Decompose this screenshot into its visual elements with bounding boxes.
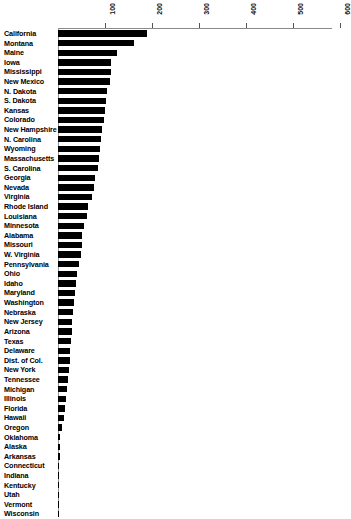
bar: [58, 424, 62, 430]
bar-row: Mississippi: [0, 67, 342, 77]
bar-row: Oregon: [0, 423, 342, 433]
bar-row: Pennsylvania: [0, 260, 342, 270]
bar: [58, 482, 59, 488]
x-axis-tick: [293, 23, 294, 28]
x-axis-tick: [105, 23, 106, 28]
bar: [58, 165, 98, 171]
bar-row: Utah: [0, 490, 342, 500]
bar-row-label: Hawaii: [4, 413, 104, 423]
bar-row: Alaska: [0, 442, 342, 452]
bar-row: New York: [0, 365, 342, 375]
bar-row-label: Illinois: [4, 394, 104, 404]
bar-row-label: Arkansas: [4, 452, 104, 462]
x-axis-tick-label: 400: [250, 3, 257, 15]
bar: [58, 251, 81, 257]
bar-row: Ohio: [0, 269, 342, 279]
bar-row: Indiana: [0, 471, 342, 481]
x-axis-tick: [246, 23, 247, 28]
bar: [58, 146, 100, 152]
bar-row-label: Oklahoma: [4, 433, 104, 443]
bar-row-label: Oregon: [4, 423, 104, 433]
bar: [58, 299, 74, 305]
bar-row-label: Arizona: [4, 327, 104, 337]
bar-row-label: Kentucky: [4, 481, 104, 491]
bar-row-label: W. Virginia: [4, 250, 104, 260]
bar-row-label: Vermont: [4, 500, 104, 510]
bar: [58, 405, 65, 411]
bar-row-label: Texas: [4, 337, 104, 347]
bar: [58, 117, 104, 123]
bar: [58, 415, 64, 421]
bar: [58, 367, 69, 373]
bar: [58, 203, 88, 209]
bar: [58, 136, 101, 142]
x-axis-tick-label: 300: [203, 3, 210, 15]
bar-row: Wyoming: [0, 144, 342, 154]
bar-row-label: Delaware: [4, 346, 104, 356]
bar: [58, 396, 66, 402]
bar-row-label: Missouri: [4, 240, 104, 250]
bar-row-label: Alaska: [4, 442, 104, 452]
bar-row: Arkansas: [0, 452, 342, 462]
bar: [58, 309, 73, 315]
bar-row: Missouri: [0, 240, 342, 250]
bar: [58, 59, 111, 65]
bar-row: Idaho: [0, 279, 342, 289]
bar: [58, 126, 102, 132]
bar: [58, 175, 95, 181]
bar: [58, 88, 107, 94]
x-axis-tick-label-wrap: 500: [297, 2, 298, 22]
bar-row: Vermont: [0, 500, 342, 510]
bar-row-label: Washington: [4, 298, 104, 308]
bar-row-label: Utah: [4, 490, 104, 500]
x-axis-tick-label: 600: [344, 3, 351, 15]
bar-row: Dist. of Col.: [0, 356, 342, 366]
x-axis-tick-label-wrap: 100: [109, 2, 110, 22]
bar: [58, 434, 60, 440]
bar-row: Minnesota: [0, 221, 342, 231]
bar: [58, 348, 70, 354]
bar: [58, 501, 59, 507]
x-axis-tick-label-wrap: 300: [203, 2, 204, 22]
bar-row: N. Dakota: [0, 87, 342, 97]
bar: [58, 472, 59, 478]
bar-row: Montana: [0, 39, 342, 49]
bar: [58, 357, 70, 363]
bar-row: Wisconsin: [0, 509, 342, 519]
bar-row: Texas: [0, 337, 342, 347]
x-axis-tick-label-wrap: 200: [156, 2, 157, 22]
bar-row: Alabama: [0, 231, 342, 241]
bar-row: New Mexico: [0, 77, 342, 87]
x-axis-tick-label: 500: [297, 3, 304, 15]
bar-row-label: Rhode Island: [4, 202, 104, 212]
x-axis-tick-label-wrap: 400: [250, 2, 251, 22]
bar-row: Oklahoma: [0, 433, 342, 443]
bar: [58, 290, 75, 296]
bar-row-label: Tennessee: [4, 375, 104, 385]
bar: [58, 223, 84, 229]
bar: [58, 328, 72, 334]
x-axis-tick-label: 200: [156, 3, 163, 15]
bar-row: Arizona: [0, 327, 342, 337]
bar-row: Washington: [0, 298, 342, 308]
bar-row-label: New York: [4, 365, 104, 375]
bar: [58, 444, 60, 450]
bar-row: Louisiana: [0, 212, 342, 222]
bar-row-label: Florida: [4, 404, 104, 414]
bar: [58, 30, 147, 36]
bar-row-label: Alabama: [4, 231, 104, 241]
bar-row: N. Carolina: [0, 135, 342, 145]
bar-row: Kentucky: [0, 481, 342, 491]
bar-row: W. Virginia: [0, 250, 342, 260]
bar-row: Michigan: [0, 385, 342, 395]
bar-row: Maine: [0, 48, 342, 58]
x-axis-tick: [340, 23, 341, 28]
bar: [58, 261, 79, 267]
bar-row: Delaware: [0, 346, 342, 356]
bar-row-label: Maryland: [4, 288, 104, 298]
bar: [58, 463, 59, 469]
bar-row: Nebraska: [0, 308, 342, 318]
bar: [58, 338, 71, 344]
bar-row: Iowa: [0, 58, 342, 68]
x-axis-tick-label: 100: [109, 3, 116, 15]
